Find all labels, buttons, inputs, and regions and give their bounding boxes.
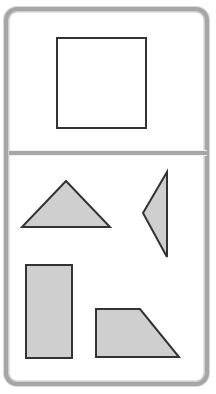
top-panel-shape-layer xyxy=(9,12,207,150)
shape-square[interactable] xyxy=(57,38,146,128)
bottom-panel xyxy=(9,156,207,381)
shape-narrow-triangle-left[interactable] xyxy=(143,172,167,257)
top-panel xyxy=(9,12,207,150)
screenshot-canvas xyxy=(0,0,216,394)
shape-triangle[interactable] xyxy=(22,181,110,227)
shape-rectangle[interactable] xyxy=(26,265,72,358)
bottom-panel-shape-layer xyxy=(9,156,207,381)
shape-trapezoid[interactable] xyxy=(96,309,179,357)
